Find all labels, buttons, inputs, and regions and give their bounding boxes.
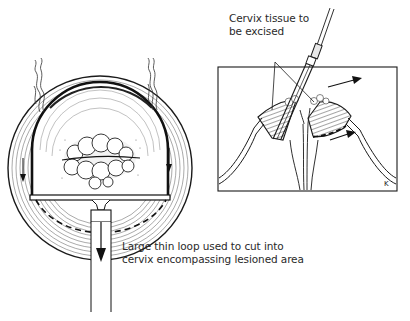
loop-handle xyxy=(91,222,111,314)
loop-label-line2: cervix encompassing lesioned area xyxy=(122,253,304,266)
loop-label-line1: Large thin loop used to cut into xyxy=(122,240,304,253)
tissue-label: Cervix tissue to be excised xyxy=(229,12,309,38)
handle-collar xyxy=(91,210,111,222)
tissue-label-line2: be excised xyxy=(229,25,309,38)
loop-crossbar xyxy=(30,195,170,200)
loop-label: Large thin loop used to cut into cervix … xyxy=(122,240,304,266)
tissue-label-line1: Cervix tissue to xyxy=(229,12,309,25)
artist-signature: K xyxy=(384,180,389,188)
cervix-frontal-view xyxy=(8,58,192,314)
illustration: K xyxy=(0,0,410,321)
